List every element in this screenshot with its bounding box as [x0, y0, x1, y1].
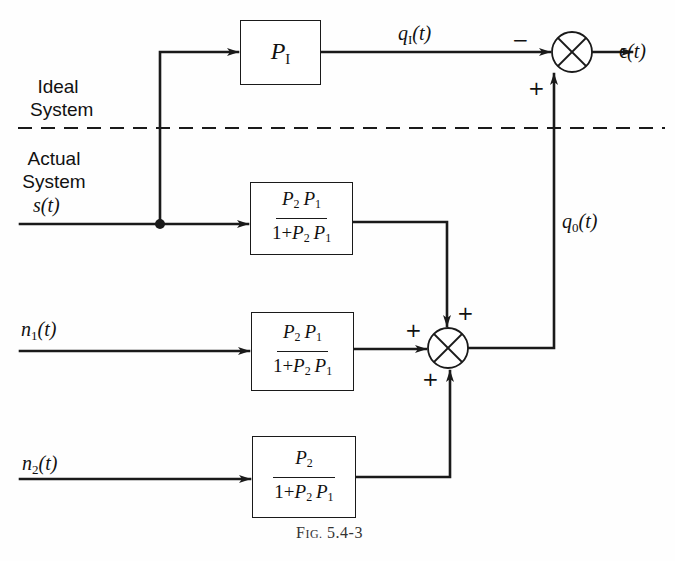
- tf-den-prefix: 1+: [272, 222, 292, 243]
- ideal-label-line2: System: [30, 98, 86, 121]
- tf-sym: P: [283, 321, 295, 342]
- signal-qI-label: qI(t): [398, 22, 431, 48]
- signal-s-label: s(t): [33, 194, 60, 217]
- tf-sym: P: [304, 321, 316, 342]
- tf-sym: P: [295, 447, 307, 468]
- tf-sub: 2: [304, 231, 310, 245]
- tf-sym: P: [293, 355, 305, 376]
- output-junction-left-sign: +: [405, 320, 422, 340]
- ideal-label-line1: Ideal: [30, 75, 86, 98]
- signal-tf-numerator: P2 P1: [276, 188, 327, 219]
- signal-qI-arg: (t): [412, 22, 431, 44]
- ideal-system-block: PI: [240, 20, 321, 85]
- block-diagram: Ideal System Actual System s(t) n1(t) n2…: [0, 0, 675, 561]
- tf-sub: 1: [326, 364, 332, 378]
- noise2-tf-denominator: 1+P2 P1: [274, 478, 333, 508]
- signal-n1-arg: (t): [38, 318, 57, 340]
- tf-sub: 1: [328, 490, 334, 504]
- ideal-system-label: Ideal System: [30, 75, 86, 121]
- noise1-transfer-fraction: P2 P1 1+P2 P1: [273, 321, 332, 382]
- wire-q0: [469, 74, 554, 348]
- signal-qI-name: q: [398, 22, 408, 44]
- tf-sym: P: [295, 481, 307, 502]
- signal-transfer-fraction: P2 P1 1+P2 P1: [272, 188, 331, 249]
- noise2-transfer-block: P2 1+P2 P1: [252, 436, 356, 518]
- signal-q0-label: q0(t): [562, 210, 597, 236]
- actual-label-line2: System: [21, 170, 87, 193]
- signal-error-arg: (t): [627, 40, 646, 62]
- wire-box1-out: [352, 222, 447, 326]
- figure-caption: FIG. 5.4-3: [296, 524, 363, 542]
- tf-sub: 1: [315, 197, 321, 211]
- error-junction-minus-sign: −: [512, 30, 529, 50]
- signal-error-name: ϵ: [619, 40, 627, 62]
- actual-label-line1: Actual: [21, 147, 87, 170]
- signal-error-label: ϵ(t): [619, 40, 646, 63]
- output-junction-bottom-sign: +: [422, 369, 439, 389]
- signal-q0-arg: (t): [579, 210, 598, 232]
- signal-s-name: s: [33, 194, 41, 216]
- tf-sub: 1: [325, 231, 331, 245]
- tf-sub: 2: [306, 490, 312, 504]
- caption-number: 5.4-3: [327, 524, 363, 541]
- error-summing-junction: [552, 32, 592, 72]
- ideal-block-sub: I: [285, 51, 290, 67]
- tf-sym: P: [315, 355, 327, 376]
- tf-sym: P: [314, 222, 326, 243]
- noise1-tf-numerator: P2 P1: [277, 321, 328, 352]
- tf-den-prefix: 1+: [273, 355, 293, 376]
- signal-n2-name: n: [22, 452, 32, 474]
- output-junction-top-sign: +: [457, 303, 474, 323]
- signal-n2-arg: (t): [39, 452, 58, 474]
- tf-sym: P: [292, 222, 304, 243]
- noise2-transfer-fraction: P2 1+P2 P1: [273, 447, 335, 508]
- tf-sub: 2: [295, 330, 301, 344]
- noise1-transfer-block: P2 P1 1+P2 P1: [251, 312, 354, 391]
- noise2-tf-numerator: P2: [273, 447, 335, 478]
- tf-sub: 2: [307, 456, 313, 470]
- tf-sym: P: [282, 188, 294, 209]
- wire-branch-to-ideal: [160, 52, 238, 224]
- signal-tf-denominator: 1+P2 P1: [272, 219, 331, 249]
- ideal-block-name: P: [271, 38, 286, 64]
- tf-sub: 1: [316, 330, 322, 344]
- tf-den-prefix: 1+: [274, 481, 294, 502]
- caption-prefix: F: [296, 524, 305, 541]
- signal-n1-name: n: [21, 318, 31, 340]
- tf-sym: P: [316, 481, 328, 502]
- caption-smallcaps: IG.: [305, 527, 322, 541]
- tf-sub: 2: [294, 197, 300, 211]
- noise1-tf-denominator: 1+P2 P1: [273, 352, 332, 382]
- signal-n2-label: n2(t): [22, 452, 57, 478]
- signal-q0-name: q: [562, 210, 572, 232]
- tf-sym: P: [303, 188, 315, 209]
- output-summing-junction: [428, 328, 468, 368]
- branch-point-dot: [155, 219, 165, 229]
- ideal-block-label: PI: [271, 38, 291, 68]
- actual-system-label: Actual System: [21, 147, 87, 193]
- signal-transfer-block: P2 P1 1+P2 P1: [250, 182, 353, 255]
- signal-n1-label: n1(t): [21, 318, 56, 344]
- tf-sub: 2: [305, 364, 311, 378]
- signal-s-arg: (t): [41, 194, 60, 216]
- error-junction-plus-sign: +: [528, 78, 545, 98]
